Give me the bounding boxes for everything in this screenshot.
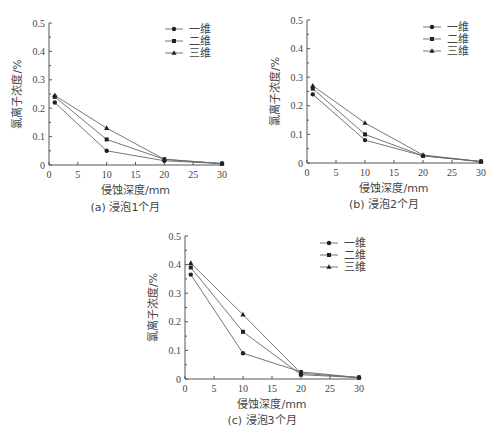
x-tick-label: 5 [75, 169, 80, 180]
y-tick-label: 0.1 [33, 131, 46, 142]
y-axis-label: 氯离子浓度/% [10, 59, 24, 128]
y-tick-label: 0.2 [169, 316, 182, 327]
series-line [191, 263, 359, 377]
series-square: 二维 [189, 249, 366, 380]
y-axis-label: 氯离子浓度/% [268, 57, 282, 126]
legend-marker [171, 50, 176, 55]
x-tick-label: 25 [325, 383, 335, 394]
data-point [189, 272, 193, 276]
figure: 00.10.20.30.40.5051015202530侵蚀深度/mm氯离子浓度… [0, 0, 499, 442]
y-tick-label: 0.5 [33, 18, 46, 29]
x-tick-label: 0 [183, 383, 188, 394]
series-line [191, 275, 359, 378]
x-tick-label: 25 [447, 167, 457, 178]
legend-marker [430, 37, 434, 41]
x-tick-label: 10 [360, 167, 370, 178]
data-point [53, 100, 57, 104]
x-tick-label: 20 [296, 383, 306, 394]
x-tick-label: 5 [212, 383, 217, 394]
data-point [241, 330, 245, 334]
x-tick-label: 20 [418, 167, 428, 178]
x-tick-label: 5 [334, 167, 339, 178]
subplot-0: 00.10.20.30.40.5051015202530侵蚀深度/mm氯离子浓度… [10, 18, 227, 215]
data-point [104, 125, 109, 130]
legend-label: 三维 [189, 47, 211, 60]
y-tick-label: 0.4 [169, 259, 182, 270]
x-tick-label: 0 [47, 169, 52, 180]
subplot-caption: (a) 浸泡1个月 [91, 200, 161, 214]
y-tick-label: 0.1 [291, 129, 304, 140]
x-tick-label: 15 [131, 169, 141, 180]
y-tick-label: 0.5 [291, 15, 304, 26]
x-tick-label: 10 [238, 383, 248, 394]
x-tick-label: 0 [305, 167, 310, 178]
legend-marker [172, 39, 176, 43]
legend-marker [327, 241, 331, 245]
series-line [191, 267, 359, 377]
x-tick-label: 25 [188, 169, 198, 180]
x-tick-label: 30 [354, 383, 364, 394]
y-tick-label: 0.1 [169, 345, 182, 356]
x-tick-label: 20 [159, 169, 169, 180]
y-tick-label: 0.5 [169, 231, 182, 242]
series-line [55, 95, 222, 163]
series-triangle: 三维 [310, 45, 483, 163]
legend-label: 三维 [344, 261, 366, 274]
series-line [55, 97, 222, 164]
y-tick-label: 0.3 [169, 288, 182, 299]
subplot-2: 00.10.20.30.40.5051015202530侵蚀深度/mm氯离子浓度… [146, 231, 366, 428]
y-tick-label: 0.2 [33, 103, 46, 114]
legend-marker [326, 264, 331, 269]
series-triangle: 三维 [52, 47, 224, 165]
y-tick-label: 0.3 [33, 74, 46, 85]
data-point [104, 149, 108, 153]
y-axis-label: 氯离子浓度/% [146, 273, 160, 342]
x-axis-label: 侵蚀深度/mm [101, 183, 170, 197]
legend-label: 三维 [447, 45, 469, 58]
data-point [363, 138, 367, 142]
y-tick-label: 0.2 [291, 100, 304, 111]
y-tick-label: 0 [298, 158, 303, 169]
y-tick-label: 0.4 [291, 43, 304, 54]
x-tick-label: 15 [389, 167, 399, 178]
data-point [189, 265, 193, 269]
legend-marker [430, 25, 434, 29]
data-point [105, 137, 109, 141]
x-tick-label: 30 [217, 169, 227, 180]
data-point [188, 260, 193, 265]
x-axis-label: 侵蚀深度/mm [237, 397, 306, 411]
series-line [313, 89, 481, 162]
x-tick-label: 15 [267, 383, 277, 394]
x-tick-label: 10 [102, 169, 112, 180]
legend-marker [172, 27, 176, 31]
series-circle: 一维 [189, 237, 366, 380]
series-line [313, 86, 481, 162]
data-point [310, 83, 315, 88]
subplot-1: 00.10.20.30.40.5051015202530侵蚀深度/mm氯离子浓度… [268, 15, 486, 212]
data-point [241, 351, 245, 355]
x-tick-label: 30 [476, 167, 486, 178]
subplot-caption: (b) 浸泡2个月 [349, 197, 419, 211]
y-tick-label: 0 [40, 160, 45, 171]
legend-marker [327, 253, 331, 257]
data-point [311, 92, 315, 96]
legend-marker [429, 48, 434, 53]
y-tick-label: 0.4 [33, 46, 46, 57]
data-point [363, 132, 367, 136]
data-point [362, 120, 367, 125]
y-tick-label: 0.3 [291, 72, 304, 83]
subplot-caption: (c) 浸泡3个月 [227, 413, 296, 427]
x-axis-label: 侵蚀深度/mm [359, 181, 428, 195]
series-line [313, 94, 481, 161]
series-triangle: 三维 [188, 260, 366, 379]
y-tick-label: 0 [176, 374, 181, 385]
